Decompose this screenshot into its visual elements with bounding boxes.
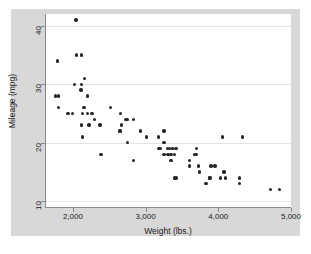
data-point — [73, 83, 76, 86]
plot-area — [46, 14, 291, 207]
data-point — [99, 153, 102, 156]
data-point — [209, 164, 212, 167]
data-point — [188, 164, 191, 167]
data-point — [219, 176, 222, 179]
data-point — [126, 118, 129, 121]
x-tick-label-2000: 2,000 — [63, 212, 83, 221]
data-point — [139, 129, 142, 132]
data-point — [80, 123, 83, 126]
data-point — [197, 164, 200, 167]
data-point — [145, 135, 148, 138]
data-point — [119, 112, 122, 115]
x-tick-label-5000: 5,000 — [281, 212, 301, 221]
gridline-y-20 — [46, 143, 291, 144]
data-point — [198, 170, 201, 173]
data-point — [208, 176, 211, 179]
gridline-y-10 — [46, 201, 291, 202]
data-point — [79, 88, 82, 91]
data-point — [195, 147, 198, 150]
y-tick-label-10: 10 — [35, 201, 44, 210]
data-point — [241, 135, 244, 138]
data-point — [238, 176, 241, 179]
data-point — [86, 112, 89, 115]
data-point — [80, 83, 83, 86]
data-point — [75, 53, 78, 56]
y-tick-label-40: 40 — [35, 26, 44, 35]
data-point — [98, 123, 101, 126]
x-axis-line — [45, 207, 291, 208]
data-point — [169, 159, 172, 162]
data-point — [81, 112, 84, 115]
data-point — [56, 59, 59, 62]
data-point — [57, 106, 60, 109]
data-point — [57, 94, 60, 97]
gridline-y-40 — [46, 26, 291, 27]
data-point — [269, 188, 272, 191]
data-point — [174, 176, 177, 179]
data-point — [119, 129, 122, 132]
data-point — [86, 94, 89, 97]
data-point — [173, 153, 176, 156]
y-tick-label-20: 20 — [35, 143, 44, 152]
data-point — [278, 188, 281, 191]
data-point — [126, 141, 129, 144]
data-point — [213, 164, 216, 167]
data-point — [132, 118, 135, 121]
scatter-plot-figure: 10203040 2,0003,0004,0005,000 Mileage (m… — [0, 0, 311, 254]
data-point — [158, 147, 161, 150]
data-point — [157, 135, 160, 138]
data-point — [81, 135, 84, 138]
data-point — [93, 118, 96, 121]
data-point — [174, 147, 177, 150]
data-point — [238, 182, 241, 185]
x-axis-title: Weight (lbs.) — [45, 226, 291, 236]
data-point — [120, 123, 123, 126]
data-point — [87, 123, 90, 126]
x-tick-label-3000: 3,000 — [136, 212, 156, 221]
x-tick-label-4000: 4,000 — [208, 212, 228, 221]
data-point — [54, 94, 57, 97]
data-point — [204, 182, 207, 185]
y-axis-line — [45, 14, 46, 208]
data-point — [188, 159, 191, 162]
data-point — [224, 176, 227, 179]
data-point — [162, 129, 165, 132]
y-tick-label-30: 30 — [35, 84, 44, 93]
data-point — [162, 141, 165, 144]
data-point — [71, 112, 74, 115]
data-point — [83, 77, 86, 80]
data-point — [74, 18, 77, 21]
data-point — [194, 153, 197, 156]
data-point — [66, 112, 69, 115]
data-point — [222, 170, 225, 173]
data-point — [90, 112, 93, 115]
y-axis-title: Mileage (mpg) — [7, 56, 17, 146]
data-point — [80, 53, 83, 56]
data-point — [109, 106, 112, 109]
data-point — [162, 153, 165, 156]
data-point — [132, 159, 135, 162]
data-point — [82, 106, 85, 109]
data-point — [221, 135, 224, 138]
